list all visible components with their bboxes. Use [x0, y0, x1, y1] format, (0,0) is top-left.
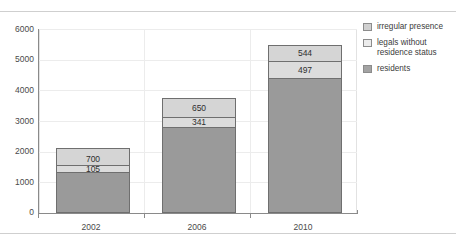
gridline-6000 [39, 29, 357, 30]
x-tick-start [38, 214, 39, 218]
y-tick-6000: 6000 [0, 25, 34, 34]
x-label-2010: 2010 [258, 222, 348, 232]
x-axis-end-cap [357, 210, 358, 214]
bar-2002[interactable]: 700 105 [56, 148, 130, 213]
bar-segment-2010-legals[interactable]: 497 [268, 61, 342, 79]
legend-swatch-irregular-icon [363, 23, 372, 31]
legend-swatch-residents-icon [363, 65, 372, 73]
x-label-2002: 2002 [46, 222, 136, 232]
legend-swatch-legals-icon [363, 39, 372, 47]
y-tick-0: 0 [0, 208, 34, 217]
y-tick-2000: 2000 [0, 147, 34, 156]
bar-segment-2006-irregular[interactable]: 650 [162, 98, 236, 118]
bar-segment-2006-residents[interactable] [162, 127, 236, 213]
plot-area: 700 105 650 341 544 497 [39, 29, 357, 213]
legend-item-legals[interactable]: legals without residence status [363, 38, 456, 58]
bar-label-2006-irregular: 650 [192, 104, 206, 113]
vertical-gridline-2 [250, 29, 251, 213]
x-axis-line [39, 213, 358, 214]
document-rule-top [0, 11, 456, 12]
document-ghost-text [8, 0, 448, 9]
y-axis-line [38, 29, 39, 214]
legend-item-irregular[interactable]: irregular presence [363, 22, 456, 32]
x-label-2006: 2006 [152, 222, 242, 232]
bar-label-2010-legals: 497 [298, 66, 312, 75]
legend-label-residents: residents [377, 64, 410, 74]
bar-segment-2010-irregular[interactable]: 544 [268, 45, 342, 62]
y-tick-5000: 5000 [0, 55, 34, 64]
y-tick-1000: 1000 [0, 178, 34, 187]
vertical-gridline-1 [144, 29, 145, 213]
bar-label-2010-irregular: 544 [298, 49, 312, 58]
chart-legend: irregular presence legals without reside… [363, 22, 456, 80]
chart-figure: 6000 5000 4000 3000 2000 1000 0 700 105 [0, 0, 456, 243]
y-tick-3000: 3000 [0, 117, 34, 126]
y-axis-labels: 6000 5000 4000 3000 2000 1000 0 [0, 0, 34, 243]
x-tick-1 [144, 214, 145, 218]
x-tick-2 [250, 214, 251, 218]
legend-item-residents[interactable]: residents [363, 64, 456, 74]
bar-segment-2002-residents[interactable] [56, 172, 130, 213]
bar-2006[interactable]: 650 341 [162, 98, 236, 213]
bar-segment-2010-residents[interactable] [268, 78, 342, 213]
legend-label-legals: legals without residence status [377, 38, 456, 58]
legend-label-irregular: irregular presence [377, 22, 443, 32]
bar-2010[interactable]: 544 497 [268, 45, 342, 213]
y-tick-4000: 4000 [0, 86, 34, 95]
bar-label-2002-irregular: 700 [86, 155, 100, 164]
bar-label-2006-legals: 341 [192, 118, 206, 127]
document-rule-bottom [0, 233, 456, 234]
